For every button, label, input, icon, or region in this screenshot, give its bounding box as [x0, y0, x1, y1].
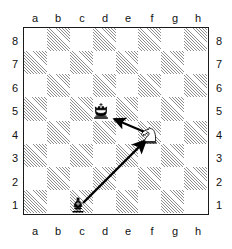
square-h8[interactable]: [184, 28, 207, 51]
square-a5[interactable]: [24, 97, 47, 120]
square-f2[interactable]: [138, 167, 161, 190]
square-e3[interactable]: [116, 144, 139, 167]
piece-black-bishop[interactable]: [68, 194, 88, 216]
square-g6[interactable]: [161, 74, 184, 97]
file-label-top-h: h: [191, 12, 205, 24]
file-label-top-f: f: [145, 12, 159, 24]
file-label-top-a: a: [28, 12, 42, 24]
file-label-bottom-a: a: [28, 225, 42, 237]
rank-label-right-2: 2: [213, 175, 225, 189]
square-f5[interactable]: [138, 97, 161, 120]
file-label-top-d: d: [98, 12, 112, 24]
square-c6[interactable]: [70, 74, 93, 97]
square-f8[interactable]: [138, 28, 161, 51]
chess-board[interactable]: [23, 27, 209, 215]
square-a2[interactable]: [24, 167, 47, 190]
square-d2[interactable]: [93, 167, 116, 190]
square-d7[interactable]: [93, 51, 116, 74]
file-label-top-b: b: [51, 12, 65, 24]
rank-label-left-5: 5: [9, 104, 21, 118]
file-label-bottom-g: g: [168, 225, 182, 237]
rank-label-left-2: 2: [9, 175, 21, 189]
square-d8[interactable]: [93, 28, 116, 51]
square-f6[interactable]: [138, 74, 161, 97]
square-h2[interactable]: [184, 167, 207, 190]
rank-label-right-6: 6: [213, 81, 225, 95]
square-e5[interactable]: [116, 97, 139, 120]
file-label-bottom-e: e: [121, 225, 135, 237]
square-e4[interactable]: [116, 121, 139, 144]
square-h7[interactable]: [184, 51, 207, 74]
rank-label-right-3: 3: [213, 151, 225, 165]
file-label-top-e: e: [121, 12, 135, 24]
square-g4[interactable]: [161, 121, 184, 144]
rank-label-right-4: 4: [213, 128, 225, 142]
square-g3[interactable]: [161, 144, 184, 167]
square-b1[interactable]: [47, 190, 70, 213]
file-label-bottom-f: f: [145, 225, 159, 237]
rank-label-right-8: 8: [213, 34, 225, 48]
file-label-bottom-b: b: [51, 225, 65, 237]
square-c3[interactable]: [70, 144, 93, 167]
file-label-bottom-h: h: [191, 225, 205, 237]
square-c2[interactable]: [70, 167, 93, 190]
square-a6[interactable]: [24, 74, 47, 97]
square-g5[interactable]: [161, 97, 184, 120]
file-label-bottom-d: d: [98, 225, 112, 237]
square-b5[interactable]: [47, 97, 70, 120]
square-e7[interactable]: [116, 51, 139, 74]
piece-black-king[interactable]: [90, 100, 112, 122]
square-c4[interactable]: [70, 121, 93, 144]
square-b6[interactable]: [47, 74, 70, 97]
square-a8[interactable]: [24, 28, 47, 51]
square-a3[interactable]: [24, 144, 47, 167]
square-f1[interactable]: [138, 190, 161, 213]
square-f7[interactable]: [138, 51, 161, 74]
rank-label-left-4: 4: [9, 128, 21, 142]
square-h1[interactable]: [184, 190, 207, 213]
square-f3[interactable]: [138, 144, 161, 167]
board-squares: [24, 28, 208, 214]
square-b2[interactable]: [47, 167, 70, 190]
square-a1[interactable]: [24, 190, 47, 213]
rank-label-right-5: 5: [213, 104, 225, 118]
square-g8[interactable]: [161, 28, 184, 51]
file-label-bottom-c: c: [75, 225, 89, 237]
square-b8[interactable]: [47, 28, 70, 51]
square-b4[interactable]: [47, 121, 70, 144]
square-h3[interactable]: [184, 144, 207, 167]
square-e6[interactable]: [116, 74, 139, 97]
square-a4[interactable]: [24, 121, 47, 144]
square-h4[interactable]: [184, 121, 207, 144]
square-g1[interactable]: [161, 190, 184, 213]
square-d1[interactable]: [93, 190, 116, 213]
square-g7[interactable]: [161, 51, 184, 74]
rank-label-left-1: 1: [9, 198, 21, 212]
rank-label-right-1: 1: [213, 198, 225, 212]
square-d6[interactable]: [93, 74, 116, 97]
rank-label-left-7: 7: [9, 57, 21, 71]
square-b7[interactable]: [47, 51, 70, 74]
square-a7[interactable]: [24, 51, 47, 74]
square-e2[interactable]: [116, 167, 139, 190]
piece-white-knight[interactable]: [137, 124, 159, 146]
square-b3[interactable]: [47, 144, 70, 167]
square-d3[interactable]: [93, 144, 116, 167]
square-c7[interactable]: [70, 51, 93, 74]
file-label-top-g: g: [168, 12, 182, 24]
square-h5[interactable]: [184, 97, 207, 120]
rank-label-left-8: 8: [9, 34, 21, 48]
rank-label-right-7: 7: [213, 57, 225, 71]
square-e1[interactable]: [116, 190, 139, 213]
square-e8[interactable]: [116, 28, 139, 51]
file-label-top-c: c: [75, 12, 89, 24]
chess-diagram: a b c d e f g h a b c d e f g h 8 7 6 5 …: [0, 0, 232, 249]
rank-label-left-6: 6: [9, 81, 21, 95]
square-h6[interactable]: [184, 74, 207, 97]
square-d4[interactable]: [93, 121, 116, 144]
square-g2[interactable]: [161, 167, 184, 190]
square-c8[interactable]: [70, 28, 93, 51]
rank-label-left-3: 3: [9, 151, 21, 165]
